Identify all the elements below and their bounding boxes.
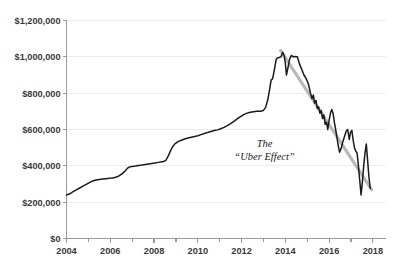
data-series-group xyxy=(67,52,371,195)
y-axis-tick-label: $0 xyxy=(50,234,60,244)
y-axis-tick-label: $800,000 xyxy=(22,89,60,99)
x-axis-tick-label: 2012 xyxy=(231,246,251,256)
y-axis xyxy=(63,21,67,240)
y-axis-tick-label: $1,000,000 xyxy=(15,52,61,62)
uber-effect-annotation: The“Uber Effect” xyxy=(234,138,295,162)
x-axis-tick-label: 2004 xyxy=(56,246,77,256)
x-axis-tick-label: 2008 xyxy=(144,246,164,256)
x-axis-tick-label: 2016 xyxy=(319,246,339,256)
y-tick-labels: $0$200,000$400,000$600,000$800,000$1,000… xyxy=(15,16,61,244)
y-axis-tick-label: $1,200,000 xyxy=(15,16,61,26)
x-axis-tick-label: 2014 xyxy=(275,246,296,256)
chart-annotations: The“Uber Effect” xyxy=(234,138,295,162)
series-line-medallion-price xyxy=(67,52,371,195)
uber-effect-annotation-line: The xyxy=(257,138,273,149)
y-axis-tick-label: $600,000 xyxy=(22,125,60,135)
x-axis-tick-label: 2018 xyxy=(363,246,383,256)
uber-effect-annotation-line: “Uber Effect” xyxy=(234,151,295,162)
x-tick-labels: 20042006200820102012201420162018 xyxy=(56,246,383,256)
medallion-price-line-chart: $0$200,000$400,000$600,000$800,000$1,000… xyxy=(0,0,396,277)
gridlines xyxy=(67,21,387,203)
y-axis-tick-label: $400,000 xyxy=(22,161,60,171)
y-axis-tick-label: $200,000 xyxy=(22,198,60,208)
chart-figure: $0$200,000$400,000$600,000$800,000$1,000… xyxy=(0,0,396,277)
x-axis xyxy=(66,239,386,243)
x-axis-tick-label: 2010 xyxy=(188,246,208,256)
x-axis-tick-label: 2006 xyxy=(100,246,120,256)
